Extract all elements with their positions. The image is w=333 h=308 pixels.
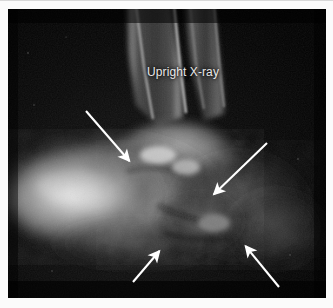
radiograph-image [8,9,326,298]
xray-plate: Upright X-ray [8,9,326,298]
mount-top-rule [0,0,333,1]
film-view-label: Upright X-ray [147,65,219,79]
xray-figure: Upright X-ray [0,0,333,308]
